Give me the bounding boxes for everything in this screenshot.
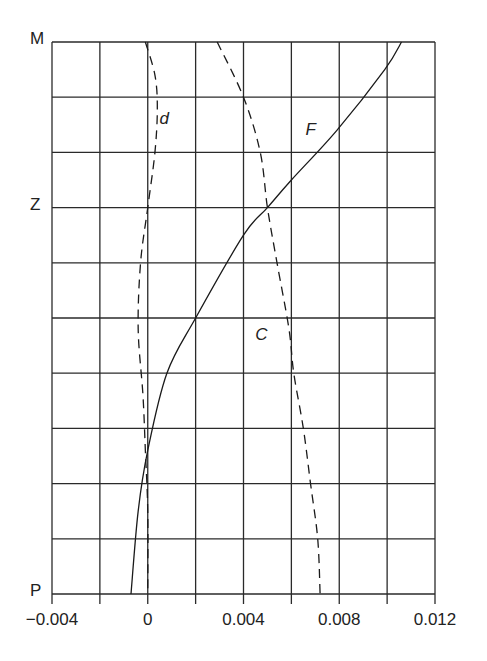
curve-label-d: d [160, 110, 169, 127]
curve-label-F: F [306, 121, 316, 138]
chart-canvas [0, 0, 487, 661]
x-tick-label: 0.004 [222, 611, 265, 628]
curve-label-C: C [255, 326, 267, 343]
x-tick-label: −0.004 [26, 611, 78, 628]
x-tick-label: 0.012 [414, 611, 457, 628]
y-label-p: P [30, 582, 41, 599]
y-label-z: Z [30, 196, 40, 213]
grid [52, 42, 435, 604]
x-tick-label: 0 [143, 611, 152, 628]
x-tick-label: 0.008 [318, 611, 361, 628]
y-label-m: M [30, 30, 44, 47]
